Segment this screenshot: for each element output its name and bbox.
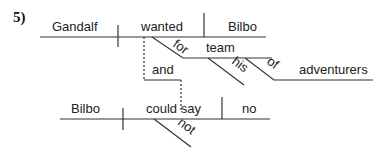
word-gandalf: Gandalf (52, 19, 98, 34)
word-adventurers: adventurers (299, 62, 368, 77)
word-bilbo-object: Bilbo (228, 19, 257, 34)
word-team: team (206, 40, 235, 55)
word-not: not (175, 114, 199, 137)
word-and: and (152, 62, 174, 77)
word-his: his (229, 53, 252, 75)
word-for: for (170, 36, 192, 57)
word-of: of (264, 53, 282, 72)
word-bilbo-subject: Bilbo (71, 101, 100, 116)
sentence-diagram: 5) Gandalf wanted Bilbo for team his of … (0, 0, 389, 157)
word-could-say: could say (146, 101, 201, 116)
word-wanted: wanted (140, 19, 183, 34)
problem-number: 5) (13, 9, 26, 26)
word-no: no (242, 101, 256, 116)
